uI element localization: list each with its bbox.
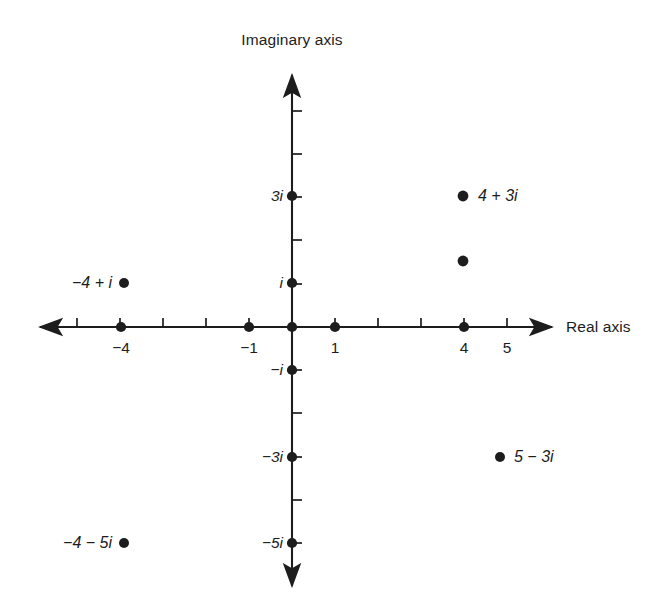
point-minus-4-plus-0i <box>116 322 126 332</box>
data-points <box>116 191 505 549</box>
point-0-plus-i <box>287 278 297 288</box>
imaginary-axis-title: Imaginary axis <box>241 32 342 48</box>
point-origin <box>287 322 297 332</box>
annotation-4-plus-3i: 4 + 3i <box>478 188 518 204</box>
annotation-minus-4-plus-i: −4 + i <box>72 275 112 291</box>
point-0-plus-3i <box>287 191 297 201</box>
tick-label-real-neg1: −1 <box>240 340 258 356</box>
point-minus-1-plus-0i <box>244 322 254 332</box>
point-minus-4-minus-5i <box>119 538 129 548</box>
point-4-plus-3i <box>458 191 469 202</box>
point-minus-4-plus-i <box>119 278 129 288</box>
point-0-minus-3i <box>287 452 297 462</box>
tick-label-imag-neg-5i: −5i <box>262 535 283 551</box>
annotation-5-minus-3i: 5 − 3i <box>514 449 554 465</box>
point-0-minus-5i <box>287 538 297 548</box>
point-5-minus-3i <box>495 452 505 462</box>
tick-label-imag-i: i <box>280 275 283 291</box>
tick-label-real-neg4: −4 <box>112 340 130 356</box>
tick-label-imag-3i: 3i <box>271 188 283 204</box>
tick-label-real-4: 4 <box>460 340 469 356</box>
tick-label-imag-neg-i: −i <box>271 362 284 378</box>
point-4-plus-1.5i <box>458 256 469 267</box>
complex-plane-figure: Imaginary axis Real axis −4 −1 1 4 5 3i … <box>0 0 667 614</box>
point-1-plus-0i <box>330 322 340 332</box>
plot-canvas <box>0 0 667 614</box>
point-0-minus-i <box>287 365 297 375</box>
tick-label-imag-neg-3i: −3i <box>262 449 283 465</box>
real-axis-title: Real axis <box>566 319 631 335</box>
point-4-plus-0i <box>459 322 469 332</box>
tick-label-real-5: 5 <box>503 340 512 356</box>
annotation-minus-4-minus-5i: −4 − 5i <box>63 535 112 551</box>
tick-label-real-1: 1 <box>331 340 340 356</box>
